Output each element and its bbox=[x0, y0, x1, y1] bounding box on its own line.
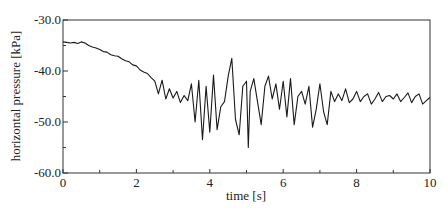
x-tick-label: 10 bbox=[424, 175, 437, 190]
y-axis-label: horizontal pressure [kPa] bbox=[8, 31, 23, 162]
y-tick-label: -30.0 bbox=[34, 12, 61, 27]
x-tick-label: 6 bbox=[280, 175, 287, 190]
x-axis-label: time [s] bbox=[226, 188, 266, 203]
pressure-series-line bbox=[63, 42, 430, 148]
x-axis-ticks: 0246810 bbox=[60, 169, 437, 190]
x-tick-label: 0 bbox=[60, 175, 67, 190]
y-tick-label: -60.0 bbox=[34, 165, 61, 180]
y-tick-label: -40.0 bbox=[34, 63, 61, 78]
x-tick-label: 2 bbox=[133, 175, 140, 190]
y-tick-label: -50.0 bbox=[34, 114, 61, 129]
pressure-time-chart: -30.0-40.0-50.0-60.0 0246810 time [s] ho… bbox=[0, 0, 448, 211]
x-tick-label: 8 bbox=[353, 175, 360, 190]
x-tick-label: 4 bbox=[207, 175, 214, 190]
